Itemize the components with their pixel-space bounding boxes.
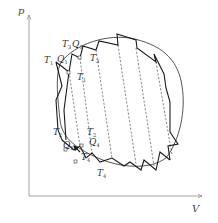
pv-cycle-diagram: p V T1 Q1 T3 Q3 T3 T1 T2 T2 Q2 Q4 T4 [0, 0, 218, 223]
label-T4-right: T4 [97, 168, 106, 179]
carnot-sawtooth-upper [56, 34, 178, 160]
carnot-left-inner [64, 72, 69, 140]
v-axis-label: V [192, 203, 201, 214]
label-Q2-bottom: Q2 [63, 140, 74, 151]
label-Q3-top: Q3 [72, 39, 83, 50]
label-T3-top: T3 [62, 39, 71, 50]
label-T1-top-left: T1 [44, 55, 53, 66]
label-T2-left: T2 [53, 127, 62, 138]
label-Q1-top: Q1 [57, 54, 68, 65]
label-T1-mid: T1 [77, 72, 86, 83]
label-Q4-bottom: Q4 [89, 137, 100, 148]
p-axis-label: p [18, 5, 25, 16]
adiabat-lines [69, 45, 172, 166]
label-T3-right: T3 [90, 53, 99, 64]
